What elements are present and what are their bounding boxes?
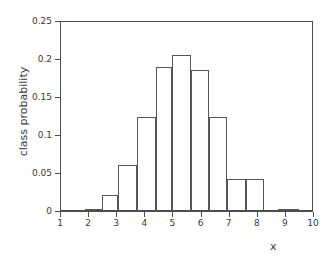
x-tick-label: 7 (219, 219, 239, 228)
x-tick-label: 4 (134, 219, 154, 228)
y-axis-label: class probability (17, 42, 30, 182)
y-tick-mark (55, 135, 60, 136)
histogram-bar (209, 117, 227, 211)
histogram-chart: 00.050.10.150.20.25 12345678910 class pr… (0, 0, 330, 265)
y-tick-label: 0 (46, 207, 52, 216)
x-tick-label: 3 (106, 219, 126, 228)
x-tick-mark (88, 212, 89, 217)
x-tick-label: 8 (247, 219, 267, 228)
x-tick-mark (229, 212, 230, 217)
x-axis-line (60, 211, 313, 212)
histogram-bar (156, 67, 173, 211)
y-tick-label: 0.25 (32, 17, 52, 26)
x-tick-mark (285, 212, 286, 217)
x-tick-label: 2 (78, 219, 98, 228)
histogram-bar (227, 179, 245, 211)
y-tick-label: 0.2 (38, 55, 52, 64)
y-tick-mark (55, 97, 60, 98)
x-tick-label: 10 (303, 219, 323, 228)
x-tick-mark (60, 212, 61, 217)
y-tick-mark (55, 59, 60, 60)
x-tick-mark (116, 212, 117, 217)
x-tick-mark (257, 212, 258, 217)
x-tick-mark (144, 212, 145, 217)
x-tick-label: 1 (50, 219, 70, 228)
x-tick-mark (172, 212, 173, 217)
x-tick-mark (313, 212, 314, 217)
x-axis-label: x (270, 240, 277, 253)
y-tick-mark (55, 21, 60, 22)
histogram-bar (137, 117, 155, 211)
y-tick-label: 0.1 (38, 131, 52, 140)
histogram-bar (102, 195, 117, 211)
x-tick-mark (201, 212, 202, 217)
histogram-bar (172, 55, 190, 211)
y-tick-label: 0.05 (32, 169, 52, 178)
x-tick-label: 5 (162, 219, 182, 228)
histogram-bar (246, 179, 264, 211)
y-tick-mark (55, 173, 60, 174)
y-axis-line (60, 21, 61, 211)
x-tick-label: 6 (191, 219, 211, 228)
y-tick-label: 0.15 (32, 93, 52, 102)
histogram-bar (278, 209, 299, 211)
plot-frame-top (60, 21, 313, 22)
histogram-bar (191, 70, 209, 211)
histogram-bar (85, 209, 102, 211)
x-tick-label: 9 (275, 219, 295, 228)
histogram-bar (118, 165, 138, 211)
plot-frame-right (312, 21, 313, 211)
